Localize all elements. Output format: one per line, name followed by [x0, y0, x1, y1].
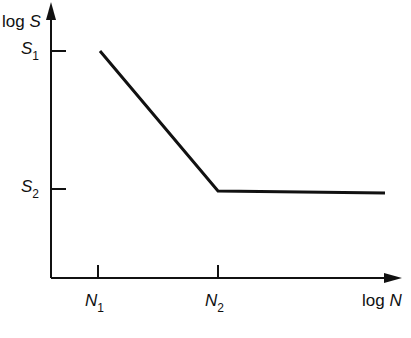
- label-n1: N1: [85, 292, 104, 309]
- n2-sub: 2: [217, 301, 224, 315]
- y-label-prefix: log: [2, 12, 29, 31]
- chart-canvas: [0, 0, 411, 338]
- x-label-var: N: [389, 291, 401, 310]
- label-n2: N2: [205, 292, 224, 309]
- sn-curve: [100, 51, 385, 193]
- x-axis-arrow-icon: [384, 273, 402, 283]
- s1-main: S: [21, 39, 32, 58]
- n1-sub: 1: [97, 301, 104, 315]
- s2-main: S: [21, 177, 32, 196]
- label-s1: S1: [21, 40, 39, 57]
- s1-sub: 1: [32, 49, 39, 63]
- n2-main: N: [205, 291, 217, 310]
- y-axis-label: log S: [2, 13, 41, 30]
- y-axis-arrow-icon: [46, 2, 56, 20]
- s2-sub: 2: [32, 187, 39, 201]
- x-label-prefix: log: [362, 291, 389, 310]
- n1-main: N: [85, 291, 97, 310]
- x-axis-label: log N: [362, 292, 402, 309]
- label-s2: S2: [21, 178, 39, 195]
- y-label-var: S: [29, 12, 40, 31]
